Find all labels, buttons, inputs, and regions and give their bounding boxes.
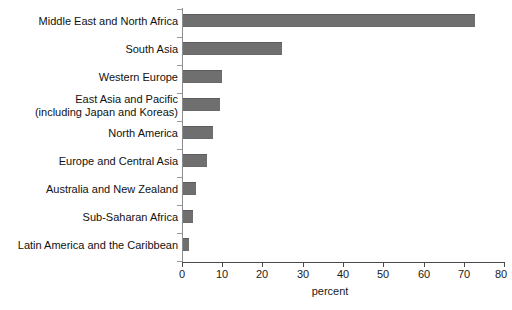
value-axis-tick-label: 50 (377, 268, 389, 280)
value-axis-tick (504, 262, 505, 267)
bar (183, 98, 220, 111)
category-label: East Asia and Pacific (including Japan a… (0, 93, 178, 118)
value-axis-title-text: percent (312, 285, 349, 297)
value-axis-tick-label: 30 (297, 268, 309, 280)
value-axis-tick (464, 262, 465, 267)
value-axis-tick-label: 70 (458, 268, 470, 280)
category-axis-tick (177, 65, 182, 66)
category-label: Europe and Central Asia (0, 155, 178, 168)
bar (183, 14, 475, 27)
bar (183, 126, 213, 139)
value-axis-tick (262, 262, 263, 267)
category-label: North America (0, 127, 178, 140)
category-label: Western Europe (0, 71, 178, 84)
value-axis-tick (222, 262, 223, 267)
value-axis-tick-label: 40 (337, 268, 349, 280)
bar (183, 182, 196, 195)
category-axis-tick (177, 121, 182, 122)
value-axis-tick-label: 20 (256, 268, 268, 280)
category-label: Australia and New Zealand (0, 183, 178, 196)
value-axis-tick-label: 0 (179, 268, 185, 280)
category-axis-tick (177, 9, 182, 10)
value-axis-tick-label: 60 (418, 268, 430, 280)
category-axis-tick (177, 93, 182, 94)
category-axis-tick (177, 37, 182, 38)
category-axis-tick (177, 149, 182, 150)
category-label: Middle East and North Africa (0, 15, 178, 28)
bar (183, 42, 282, 55)
value-axis-tick (343, 262, 344, 267)
bar-chart: Middle East and North Africa South Asia … (0, 0, 512, 310)
category-axis-tick (177, 177, 182, 178)
value-axis-tick (303, 262, 304, 267)
category-label: South Asia (0, 43, 178, 56)
value-axis-tick (424, 262, 425, 267)
bar (183, 154, 207, 167)
value-axis-tick-label: 10 (216, 268, 228, 280)
category-label: Latin America and the Caribbean (0, 239, 178, 252)
bar (183, 70, 222, 83)
category-label: Sub-Saharan Africa (0, 211, 178, 224)
category-axis-tick (177, 205, 182, 206)
value-axis-tick-label: 80 (495, 268, 507, 280)
category-axis-tick (177, 233, 182, 234)
value-axis-tick (383, 262, 384, 267)
value-axis-title: percent (0, 285, 512, 297)
bar (183, 210, 193, 223)
bar (183, 238, 189, 251)
value-axis-tick (182, 262, 183, 267)
